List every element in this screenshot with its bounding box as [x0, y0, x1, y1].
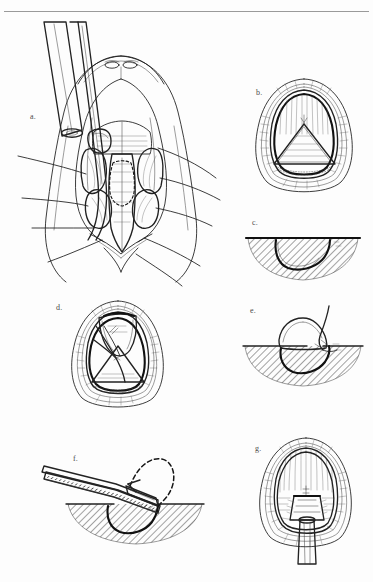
panel-g-illustration — [244, 434, 368, 564]
mucosal-margin — [274, 94, 333, 175]
triangular-graft — [274, 124, 335, 164]
mucosal-folds — [278, 450, 334, 520]
instrument-rail[interactable] — [42, 466, 158, 506]
strap-muscles-right — [132, 148, 162, 228]
cricoid-cartilage — [109, 154, 135, 252]
panel-c: c. — [238, 212, 368, 288]
airway-lumen — [86, 312, 148, 394]
panel-f: f. — [42, 446, 208, 552]
panel-b: b. — [243, 74, 365, 196]
mucosal-margin — [277, 452, 333, 530]
graft-flap — [99, 314, 136, 356]
panel-d-label: d. — [56, 303, 62, 312]
instrument-shaft-upper[interactable] — [44, 22, 83, 137]
midline-suture — [303, 486, 309, 496]
tissue-hatching — [68, 504, 202, 544]
panel-d-illustration — [52, 296, 178, 408]
top-horizontal-rule — [4, 11, 369, 12]
panel-c-label: c. — [252, 218, 258, 227]
panel-a-label: a. — [30, 112, 36, 121]
panel-e-illustration — [237, 300, 369, 392]
tissue-hatching — [245, 346, 361, 386]
panel-e-label: e. — [250, 306, 256, 315]
panel-a-illustration — [8, 22, 236, 288]
panel-f-illustration — [42, 446, 208, 552]
panel-e: e. — [237, 300, 369, 392]
retraction-sutures-right[interactable] — [136, 148, 220, 286]
figure-page: a. — [0, 0, 373, 582]
panel-d: d. — [52, 296, 178, 408]
panel-g-label: g. — [255, 444, 261, 453]
panel-a: a. — [8, 22, 236, 288]
panel-b-label: b. — [256, 88, 262, 97]
panel-f-label: f. — [73, 454, 78, 463]
retraction-sutures-left[interactable] — [18, 156, 102, 262]
panel-g: g. — [244, 434, 368, 564]
skin-margins — [45, 56, 196, 282]
tissue-hatching — [248, 238, 358, 280]
